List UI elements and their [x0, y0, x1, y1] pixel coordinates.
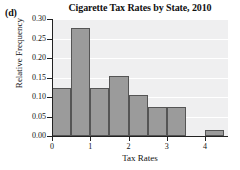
x-tick-mark	[52, 136, 53, 141]
y-tick-mark	[47, 39, 52, 40]
x-tick-label: 2	[119, 142, 139, 151]
figure-container: (d) Cigarette Tax Rates by State, 2010 0…	[0, 0, 240, 170]
y-tick-label-wrap: 0.00	[0, 132, 46, 140]
bar	[71, 28, 90, 136]
y-tick-mark	[47, 19, 52, 20]
x-tick-mark	[167, 136, 168, 141]
x-tick-mark	[205, 136, 206, 141]
bar	[52, 88, 71, 136]
x-axis-title: Tax Rates	[52, 153, 228, 163]
plot-area	[52, 19, 228, 136]
y-tick-mark	[47, 58, 52, 59]
y-tick-label: 0.00	[20, 132, 46, 140]
x-tick-label: 1	[80, 142, 100, 151]
x-tick-label: 0	[42, 142, 62, 151]
x-tick-label: 3	[157, 142, 177, 151]
y-tick-mark	[47, 97, 52, 98]
gridline	[52, 19, 228, 20]
bar	[129, 95, 148, 136]
bar	[148, 107, 167, 136]
y-tick-label: 0.05	[20, 113, 46, 121]
chart-title: Cigarette Tax Rates by State, 2010	[52, 2, 228, 13]
y-tick-mark	[47, 117, 52, 118]
y-axis-line	[52, 19, 53, 137]
x-tick-mark	[129, 136, 130, 141]
bar	[167, 107, 186, 136]
bar	[109, 76, 128, 136]
x-axis-line	[52, 136, 228, 137]
y-tick-label-wrap: 0.05	[0, 113, 46, 121]
bar	[90, 88, 109, 136]
x-tick-label: 4	[195, 142, 215, 151]
x-tick-mark	[90, 136, 91, 141]
y-tick-mark	[47, 78, 52, 79]
y-axis-title: Relative Frequency	[14, 0, 24, 108]
